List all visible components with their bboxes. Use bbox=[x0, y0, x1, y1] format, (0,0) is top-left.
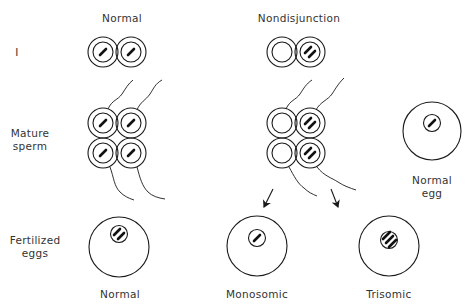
arrow-to-trisomic bbox=[331, 189, 338, 207]
row-label-mature-line1: Mature bbox=[11, 127, 50, 139]
outcome-label-monosomic: Monosomic bbox=[226, 288, 288, 300]
row-label-fertilized-line2: eggs bbox=[22, 247, 48, 259]
normal-sperm-cells bbox=[88, 108, 146, 168]
chromosomes bbox=[100, 47, 435, 247]
outcome-label-trisomic: Trisomic bbox=[365, 288, 411, 300]
normal-egg-label-line1: Normal bbox=[412, 174, 452, 186]
fertilized-egg-normal bbox=[89, 217, 149, 277]
arrows bbox=[264, 189, 338, 207]
chromosome bbox=[305, 148, 311, 154]
chromosome bbox=[429, 120, 435, 126]
normal-egg-cell bbox=[403, 102, 461, 160]
nondisjunction-meiosis-i-cells bbox=[267, 37, 325, 67]
column-title-nondisjunction: Nondisjunction bbox=[258, 12, 340, 24]
chromosome bbox=[309, 122, 315, 128]
chromosome bbox=[100, 150, 106, 156]
chromosome bbox=[114, 229, 120, 235]
row-label-meiosis-i: I bbox=[15, 46, 18, 58]
chromosome bbox=[118, 233, 124, 239]
row-label-fertilized-line1: Fertilized bbox=[10, 234, 61, 246]
column-title-normal: Normal bbox=[102, 12, 142, 24]
chromosome bbox=[100, 120, 106, 126]
outcome-label-normal: Normal bbox=[100, 288, 140, 300]
chromosome bbox=[386, 236, 393, 243]
chromosome bbox=[128, 120, 134, 126]
chromosome bbox=[128, 49, 134, 55]
chromosome bbox=[309, 152, 315, 158]
chromosome bbox=[309, 51, 315, 57]
nondisjunction-diagram: Normal Nondisjunction I Mature sperm Fer… bbox=[0, 0, 471, 305]
sperm-tails bbox=[108, 78, 356, 200]
chromosome bbox=[128, 150, 134, 156]
nondisjunction-sperm-cells bbox=[267, 108, 325, 168]
chromosome bbox=[100, 49, 106, 55]
row-label-mature-line2: sperm bbox=[13, 140, 47, 152]
arrow-to-monosomic bbox=[264, 189, 273, 207]
chromosome bbox=[305, 47, 311, 53]
normal-egg-label-line2: egg bbox=[422, 187, 443, 199]
chromosome bbox=[305, 118, 311, 124]
fertilized-egg-monosomic bbox=[227, 216, 287, 276]
normal-meiosis-i-cells bbox=[88, 37, 146, 67]
chromosome bbox=[254, 235, 260, 241]
